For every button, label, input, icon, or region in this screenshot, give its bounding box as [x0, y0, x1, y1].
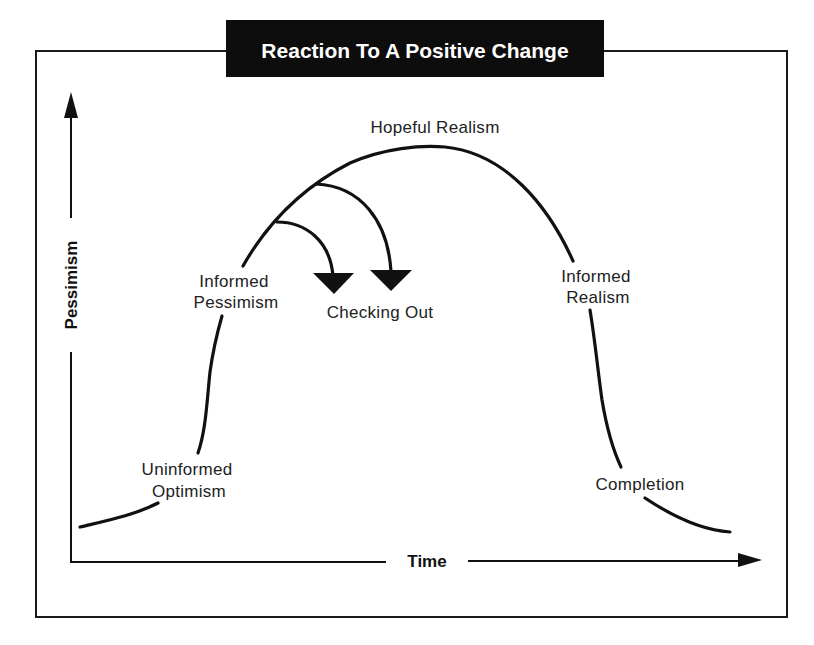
- y-axis-label: Pessimism: [62, 241, 81, 330]
- label-informed-pessimism-line1: Informed: [199, 272, 269, 291]
- checking-out-arrow-icon: [313, 273, 354, 294]
- stage-labels: Hopeful Realism Informed Pessimism Check…: [142, 118, 685, 501]
- title-box: Reaction To A Positive Change: [226, 20, 604, 77]
- diagram-title: Reaction To A Positive Change: [261, 39, 568, 62]
- y-axis: Pessimism: [62, 92, 81, 562]
- x-axis: Time: [70, 552, 762, 571]
- checking-out-arrow-icon: [370, 270, 412, 291]
- label-informed-pessimism-line2: Pessimism: [194, 293, 279, 312]
- y-axis-arrow-icon: [64, 92, 78, 118]
- change-reaction-diagram: Reaction To A Positive Change Pessimism …: [0, 0, 814, 645]
- label-completion: Completion: [596, 475, 685, 494]
- label-uninformed-optimism-line2: Optimism: [152, 482, 226, 501]
- x-axis-arrow-icon: [738, 553, 762, 567]
- label-checking-out: Checking Out: [327, 303, 434, 322]
- label-informed-realism-line1: Informed: [561, 267, 631, 286]
- label-hopeful-realism: Hopeful Realism: [370, 118, 499, 137]
- label-informed-realism-line2: Realism: [566, 288, 630, 307]
- x-axis-label: Time: [407, 552, 446, 571]
- label-uninformed-optimism-line1: Uninformed: [142, 460, 233, 479]
